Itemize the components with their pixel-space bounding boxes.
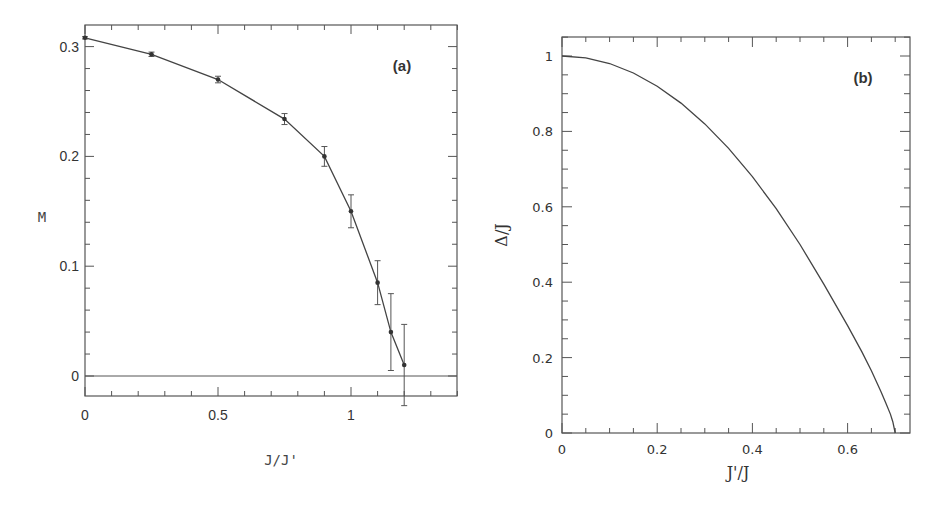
x-tick-label: 0.2 <box>647 442 668 457</box>
data-point-marker <box>375 280 380 285</box>
chart-panel-a: 00.5100.10.20.3 (a) M J/J' <box>38 25 458 468</box>
data-point-marker <box>389 330 394 335</box>
x-tick-label: 0.6 <box>837 442 858 457</box>
data-point-marker <box>149 52 154 57</box>
axis-ticks-a <box>85 25 457 396</box>
tick-labels-a: 00.5100.10.20.3 <box>60 39 356 423</box>
y-tick-label: 0 <box>71 368 79 384</box>
y-tick-label: 0.8 <box>532 124 553 139</box>
data-line <box>85 38 404 365</box>
y-tick-label: 0.1 <box>60 258 80 274</box>
figure: 00.5100.10.20.3 (a) M J/J' 00.20.40.600.… <box>0 0 946 509</box>
data-series-a <box>82 36 407 406</box>
y-tick-label: 0.2 <box>60 148 80 164</box>
chart-panel-b: 00.20.40.600.20.40.60.81 (b) Δ/J J'/J <box>492 37 910 482</box>
plot-frame-b <box>562 37 910 433</box>
panel-label-b: (b) <box>853 69 872 86</box>
plot-frame-a <box>85 25 457 396</box>
data-point-marker <box>83 36 88 41</box>
y-tick-label: 0 <box>545 426 553 441</box>
data-point-marker <box>322 154 327 159</box>
x-tick-label: 0 <box>558 442 566 457</box>
y-tick-label: 0.4 <box>532 275 553 290</box>
x-tick-label: 0.4 <box>742 442 763 457</box>
x-tick-label: 0.5 <box>208 407 228 423</box>
x-axis-label-a: J/J' <box>264 452 298 468</box>
y-tick-label: 1 <box>545 49 553 64</box>
data-point-marker <box>349 209 354 214</box>
x-tick-label: 0 <box>81 407 89 423</box>
tick-labels-b: 00.20.40.600.20.40.60.81 <box>532 49 858 457</box>
data-series-b <box>562 56 895 433</box>
x-tick-label: 1 <box>347 407 355 423</box>
data-point-marker <box>216 77 221 82</box>
y-axis-label-b: Δ/J <box>492 223 511 246</box>
data-point-marker <box>282 117 287 122</box>
x-axis-label-b: J'/J <box>725 463 750 482</box>
axis-ticks-b <box>562 37 910 433</box>
y-tick-label: 0.6 <box>532 200 553 215</box>
data-point-marker <box>402 363 407 368</box>
data-curve <box>562 56 895 433</box>
y-tick-label: 0.2 <box>532 351 553 366</box>
panel-label-a: (a) <box>393 57 411 74</box>
y-axis-label-a: M <box>38 209 46 225</box>
y-tick-label: 0.3 <box>60 39 80 55</box>
